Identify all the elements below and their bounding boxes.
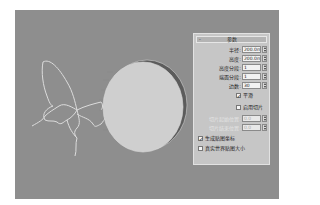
height-segments-spinner-icon[interactable]	[262, 64, 267, 71]
slice-from-row: 切片起始位置: 0.0	[194, 115, 269, 123]
real-world-map-size-checkbox[interactable]	[198, 146, 203, 151]
sides-row: 边数: 30	[194, 82, 269, 90]
radius-label: 半径:	[229, 47, 241, 53]
slice-on-label: 启用切片	[243, 104, 263, 110]
sides-label: 边数:	[229, 83, 241, 89]
generate-mapping-label: 生成贴图坐标	[205, 135, 235, 141]
rollout-header-parameters[interactable]: - 参数	[196, 36, 267, 43]
rollout-title: 参数	[227, 36, 237, 42]
slice-from-label: 切片起始位置:	[209, 116, 241, 122]
sides-input[interactable]: 30	[242, 82, 261, 89]
collapse-icon: -	[199, 37, 201, 42]
slice-from-input[interactable]: 0.0	[242, 115, 261, 122]
height-spinner-icon[interactable]	[262, 55, 267, 62]
sides-spinner-icon[interactable]	[262, 82, 267, 89]
height-label: 高度:	[229, 56, 241, 62]
cap-segments-label: 端面分段:	[219, 74, 241, 80]
slice-on-checkbox[interactable]	[236, 105, 241, 110]
radius-row: 半径: 200.0mm	[194, 46, 269, 54]
slice-from-spinner-icon[interactable]	[262, 115, 267, 122]
real-world-map-size-label: 真实世界贴图大小	[205, 145, 245, 151]
slice-to-row: 切片结束位置: 0.0	[194, 124, 269, 132]
height-input[interactable]: 200.0mm	[242, 55, 261, 62]
butterfly-spline-icon[interactable]	[32, 61, 107, 156]
slice-to-spinner-icon[interactable]	[262, 124, 267, 131]
cylinder-object[interactable]	[99, 60, 187, 152]
height-segments-label: 高度分段:	[219, 65, 241, 71]
cap-segments-row: 端面分段: 1	[194, 73, 269, 81]
height-segments-row: 高度分段: 1	[194, 64, 269, 72]
cap-segments-spinner-icon[interactable]	[262, 73, 267, 80]
smooth-checkbox[interactable]: ✓	[236, 93, 241, 98]
parameters-rollout-panel: - 参数 半径: 200.0mm 高度: 200.0mm 高度分段: 1 端面分…	[193, 33, 270, 165]
slice-to-input[interactable]: 0.0	[242, 124, 261, 131]
radius-spinner-icon[interactable]	[262, 46, 267, 53]
height-row: 高度: 200.0mm	[194, 55, 269, 63]
slice-to-label: 切片结束位置:	[209, 125, 241, 131]
height-segments-input[interactable]: 1	[242, 64, 261, 71]
cap-segments-input[interactable]: 1	[242, 73, 261, 80]
smooth-label: 平滑	[243, 92, 253, 98]
radius-input[interactable]: 200.0mm	[242, 46, 261, 53]
generate-mapping-checkbox[interactable]: ✓	[198, 136, 203, 141]
